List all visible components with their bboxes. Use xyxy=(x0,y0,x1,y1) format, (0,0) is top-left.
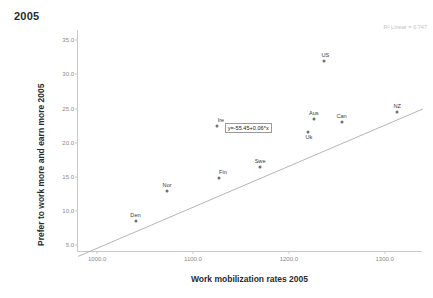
regression-equation-label: y=-55.45+0.06*x xyxy=(225,123,272,133)
x-axis-tick-label: 1200.0 xyxy=(280,256,298,262)
x-axis-tick-label: 1100.0 xyxy=(184,256,202,262)
y-axis-tick-label: 35.0 xyxy=(62,37,74,43)
data-point-label: Ire xyxy=(218,117,225,123)
x-axis-tick-mark xyxy=(384,251,385,254)
y-axis-tick-label: 15.0 xyxy=(62,174,74,180)
data-point[interactable] xyxy=(396,110,399,113)
data-point-label: Uk xyxy=(306,134,313,140)
y-axis-tick-label: 25.0 xyxy=(62,106,74,112)
y-axis-tick-mark xyxy=(75,74,78,75)
y-axis-tick-mark xyxy=(75,176,78,177)
scatter-chart: 2005 R² Linear = 0.747 Prefer to work mo… xyxy=(0,0,433,298)
data-point[interactable] xyxy=(312,117,315,120)
y-axis-tick-mark xyxy=(75,142,78,143)
plot-canvas: 5.010.015.020.025.030.035.01000.01100.01… xyxy=(78,30,422,251)
data-point-label: Swe xyxy=(255,158,266,164)
y-axis-tick-mark xyxy=(75,108,78,109)
data-point-label: Can xyxy=(336,113,346,119)
y-axis-label: Prefer to work more and earn more 2005 xyxy=(36,83,46,246)
y-axis-tick-mark xyxy=(75,40,78,41)
x-axis-tick-mark xyxy=(97,251,98,254)
y-axis-tick-mark xyxy=(75,211,78,212)
data-point-label: NZ xyxy=(393,103,400,109)
chart-title: 2005 xyxy=(14,10,39,22)
data-point[interactable] xyxy=(215,124,218,127)
data-point-label: Aus xyxy=(309,110,319,116)
data-point[interactable] xyxy=(323,59,326,62)
x-axis-tick-mark xyxy=(288,251,289,254)
y-axis-tick-label: 20.0 xyxy=(62,140,74,146)
data-point[interactable] xyxy=(217,177,220,180)
data-point-label: Den xyxy=(130,212,140,218)
data-point[interactable] xyxy=(134,220,137,223)
data-point[interactable] xyxy=(340,121,343,124)
x-axis-tick-mark xyxy=(193,251,194,254)
y-axis-tick-label: 5.0 xyxy=(66,242,74,248)
data-point[interactable] xyxy=(166,189,169,192)
x-axis-label: Work mobilization rates 2005 xyxy=(77,274,422,284)
y-axis-tick-label: 30.0 xyxy=(62,71,74,77)
data-point-label: Nor xyxy=(163,182,172,188)
y-axis-label-container: Prefer to work more and earn more 2005 xyxy=(24,28,40,248)
data-point-label: Fin xyxy=(219,169,227,175)
x-axis-tick-label: 1300.0 xyxy=(375,256,393,262)
data-point-label: US xyxy=(321,52,329,58)
y-axis-tick-mark xyxy=(75,245,78,246)
data-point[interactable] xyxy=(259,165,262,168)
plot-area: 5.010.015.020.025.030.035.01000.01100.01… xyxy=(77,30,422,252)
x-axis-tick-label: 1000.0 xyxy=(88,256,106,262)
y-axis-tick-label: 10.0 xyxy=(62,208,74,214)
